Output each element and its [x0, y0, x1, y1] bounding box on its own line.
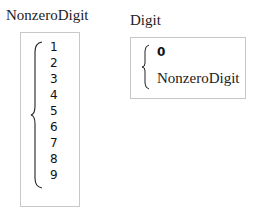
- alternative-6: 6: [50, 120, 58, 134]
- alternative-2: 2: [50, 56, 58, 70]
- alternative-0: 0: [157, 45, 165, 59]
- alternative-8: 8: [50, 152, 58, 166]
- rule-box-digit: 0 NonzeroDigit: [130, 37, 246, 99]
- alternative-3: 3: [50, 72, 58, 86]
- alternative-1: 1: [50, 40, 58, 54]
- left-brace-icon: [30, 40, 44, 190]
- rule-box-nonzerodigit: 1 2 3 4 5 6 7 8 9: [20, 32, 80, 207]
- alternative-5: 5: [50, 104, 58, 118]
- rule-title-nonzerodigit: NonzeroDigit: [6, 7, 88, 24]
- alternative-7: 7: [50, 136, 58, 150]
- alternative-4: 4: [50, 88, 58, 102]
- alternative-9: 9: [50, 168, 58, 182]
- left-brace-icon: [141, 44, 151, 90]
- rule-title-digit: Digit: [130, 12, 161, 29]
- alternative-nonzerodigit: NonzeroDigit: [157, 70, 239, 87]
